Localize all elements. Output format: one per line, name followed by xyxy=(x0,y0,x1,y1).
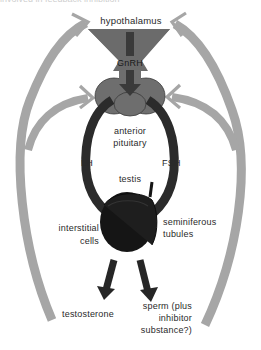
output-arrows xyxy=(97,260,158,302)
label-seminiferous: seminiferous xyxy=(163,217,216,228)
diagram-stage: involved in feedback inhibition xyxy=(0,0,261,350)
label-lh: LH xyxy=(81,158,93,169)
label-tubules: tubules xyxy=(163,229,193,240)
label-hypothalamus: hypothalamus xyxy=(93,15,169,26)
label-sperm-3: substance?) xyxy=(128,325,192,336)
feedback-arrow-left-to-hypothalamus xyxy=(20,23,86,320)
label-fsh: FSH xyxy=(162,158,181,169)
label-sperm-2: inhibitor xyxy=(128,313,192,324)
label-sperm-1: sperm (plus xyxy=(128,301,192,312)
sperm-arrow xyxy=(140,260,148,292)
label-gnrh: GnRH xyxy=(113,58,147,69)
sperm-arrowhead-icon xyxy=(140,287,158,302)
testis-shape xyxy=(100,182,157,252)
label-cells: cells xyxy=(40,236,99,247)
testosterone-arrow xyxy=(106,260,114,290)
label-interstitial: interstitial xyxy=(40,223,99,234)
label-pituitary: pituitary xyxy=(105,138,155,149)
feedback-arrow-left-to-pituitary xyxy=(28,98,88,150)
label-testis: testis xyxy=(110,174,150,185)
label-testosterone: testosterone xyxy=(62,309,114,320)
feedback-arrow-right-to-hypothalamus xyxy=(175,24,241,325)
label-anterior: anterior xyxy=(105,126,155,137)
testosterone-arrowhead-icon xyxy=(97,286,115,300)
